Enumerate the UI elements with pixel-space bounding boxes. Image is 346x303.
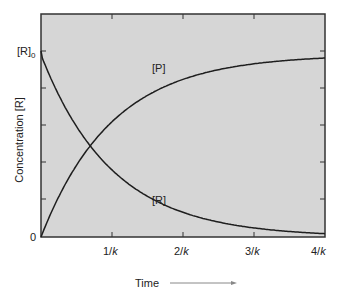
y-tick-zero: 0 <box>30 231 36 243</box>
x-tick-1k: 1/k <box>103 245 118 257</box>
y-axis-label: Concentration [R] <box>13 97 25 183</box>
series-p-label: [P] <box>152 62 165 74</box>
x-axis-label: Time <box>135 277 159 289</box>
time-arrow-icon <box>170 281 237 285</box>
plot-area <box>41 14 325 237</box>
chart: [P] [R] [R]0 0 1/k 2/k 3/k 4/k Concentra… <box>0 0 346 303</box>
y-tick-r0: [R]0 <box>17 45 36 60</box>
x-tick-4k: 4/k <box>311 245 326 257</box>
x-tick-2k: 2/k <box>174 245 189 257</box>
x-tick-3k: 3/k <box>245 245 260 257</box>
series-r-label: [R] <box>152 194 166 206</box>
